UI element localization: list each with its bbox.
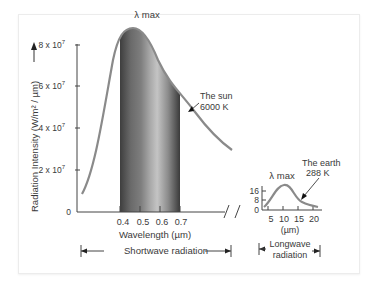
svg-text:4 x 107: 4 x 107 — [39, 122, 66, 133]
svg-text:0.7: 0.7 — [175, 217, 188, 227]
arrow-left-icon — [81, 249, 87, 254]
visible-light-band — [120, 20, 180, 212]
svg-text:0: 0 — [66, 207, 71, 217]
earth-temp-label: 288 K — [306, 168, 330, 178]
earth-chart: 16 8 0 5 10 15 20 (µm) λ max The earth 2… — [250, 158, 341, 235]
sun-y-ticks: 8 x 107 6 x 107 4 x 107 2 x 107 0 — [39, 39, 81, 217]
svg-text:0.6: 0.6 — [156, 217, 169, 227]
arrow-right-icon — [225, 249, 231, 254]
svg-text:8: 8 — [254, 195, 259, 205]
svg-text:0.5: 0.5 — [137, 217, 150, 227]
svg-text:20: 20 — [309, 214, 319, 224]
y-axis-title: Radiation Intensity (W/m² / µm) — [29, 81, 40, 212]
svg-text:0: 0 — [254, 205, 259, 215]
sun-name-label: The sun — [200, 91, 233, 101]
sun-x-axis-title: Wavelength (µm) — [119, 229, 191, 240]
sun-peak-label: λ max — [134, 9, 160, 20]
earth-name-label: The earth — [302, 158, 341, 168]
svg-text:6 x 107: 6 x 107 — [39, 80, 66, 91]
sun-x-ticks: 0.4 0.5 0.6 0.7 — [117, 217, 188, 227]
svg-text:10: 10 — [279, 214, 289, 224]
longwave-label-line1: Longwave — [269, 239, 310, 249]
longwave-label-line2: radiation — [273, 250, 308, 260]
radiation-diagram: Radiation Intensity (W/m² / µm) 8 x 107 … — [0, 0, 376, 287]
svg-text:0.4: 0.4 — [117, 217, 130, 227]
shortwave-range: Shortwave radiation — [81, 245, 231, 257]
longwave-range: Longwave radiation — [259, 239, 320, 260]
earth-peak-label: λ max — [269, 170, 295, 181]
sun-temp-label: 6000 K — [200, 102, 229, 112]
earth-pointer-line — [304, 178, 319, 196]
earth-curve — [264, 185, 318, 207]
shortwave-label: Shortwave radiation — [124, 245, 208, 256]
svg-text:2 x 107: 2 x 107 — [39, 164, 66, 175]
svg-text:8 x 107: 8 x 107 — [39, 39, 66, 50]
arrow-right-icon — [314, 249, 320, 254]
arrow-up-icon — [31, 42, 37, 50]
svg-text:5: 5 — [268, 214, 273, 224]
earth-x-axis-title: (µm) — [281, 225, 300, 235]
svg-text:15: 15 — [294, 214, 304, 224]
